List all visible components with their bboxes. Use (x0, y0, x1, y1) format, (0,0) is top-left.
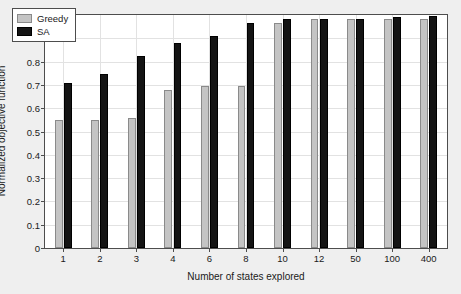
bar-sa-6 (210, 36, 218, 248)
x-axis-tick-label: 4 (170, 253, 175, 264)
plot-area: 00.10.20.30.40.50.60.70.80.9112346810125… (44, 14, 448, 249)
y-axis-tick (41, 85, 45, 86)
x-axis-tick-label: 100 (384, 253, 400, 264)
x-axis-tick-label: 50 (350, 253, 361, 264)
legend-swatch-greedy-icon (17, 14, 32, 23)
bar-sa-100 (393, 17, 401, 248)
x-axis-tick-label: 12 (314, 253, 325, 264)
bar-greedy-400 (420, 19, 428, 249)
y-axis-tick (41, 248, 45, 249)
x-axis-tick-label: 10 (277, 253, 288, 264)
bar-greedy-50 (347, 19, 355, 249)
y-axis-tick-label: 0.8 (27, 56, 40, 67)
y-axis-tick (41, 62, 45, 63)
bar-greedy-6 (201, 86, 209, 248)
bar-greedy-1 (55, 120, 63, 248)
bar-sa-4 (174, 43, 182, 248)
x-axis-tick-label: 8 (243, 253, 248, 264)
bar-sa-2 (100, 74, 108, 248)
x-axis-tick-label: 400 (421, 253, 437, 264)
y-axis-tick-label: 0.7 (27, 79, 40, 90)
bar-greedy-100 (384, 19, 392, 249)
x-axis-tick (209, 248, 210, 252)
bar-sa-3 (137, 56, 145, 248)
bar-sa-10 (283, 19, 291, 249)
x-axis-tick (283, 248, 284, 252)
y-axis-tick-label: 0.1 (27, 219, 40, 230)
bar-greedy-2 (91, 120, 99, 248)
x-axis-tick (246, 248, 247, 252)
y-axis-tick-label: 0 (35, 243, 40, 254)
bar-greedy-3 (128, 118, 136, 248)
chart-legend: Greedy SA (12, 8, 76, 42)
figure-canvas: Normalized objective function 00.10.20.3… (0, 0, 461, 294)
x-axis-tick-label: 6 (207, 253, 212, 264)
bar-sa-400 (429, 16, 437, 248)
x-axis-tick-label: 2 (97, 253, 102, 264)
legend-item-greedy: Greedy (17, 12, 68, 25)
bar-sa-50 (356, 19, 364, 249)
bar-greedy-4 (164, 90, 172, 248)
y-axis-tick (41, 225, 45, 226)
x-axis-tick-label: 1 (61, 253, 66, 264)
y-axis-tick (41, 201, 45, 202)
x-axis-tick (100, 248, 101, 252)
bar-sa-12 (320, 19, 328, 249)
x-axis-tick (429, 248, 430, 252)
x-axis-tick (356, 248, 357, 252)
x-axis-tick (63, 248, 64, 252)
y-axis-tick-label: 0.6 (27, 103, 40, 114)
y-axis-tick-label: 0.3 (27, 173, 40, 184)
y-axis-title: Normalized objective function (0, 66, 7, 197)
x-axis-tick-label: 3 (134, 253, 139, 264)
legend-label-greedy: Greedy (37, 13, 68, 24)
y-axis-tick (41, 178, 45, 179)
x-axis-tick (173, 248, 174, 252)
legend-item-sa: SA (17, 25, 68, 38)
x-axis-tick (319, 248, 320, 252)
bar-sa-8 (247, 23, 255, 248)
y-axis-tick-label: 0.2 (27, 196, 40, 207)
bar-sa-1 (64, 83, 72, 248)
bar-greedy-8 (238, 86, 246, 248)
legend-label-sa: SA (37, 26, 50, 37)
y-axis-tick (41, 132, 45, 133)
y-axis-tick (41, 108, 45, 109)
bar-greedy-12 (311, 19, 319, 249)
bar-greedy-10 (274, 23, 282, 248)
y-axis-tick-label: 0.5 (27, 126, 40, 137)
y-axis-tick (41, 155, 45, 156)
y-axis-tick-label: 0.4 (27, 149, 40, 160)
legend-swatch-sa-icon (17, 27, 32, 36)
x-axis-title: Number of states explored (44, 271, 448, 282)
x-axis-tick (136, 248, 137, 252)
x-axis-tick (392, 248, 393, 252)
